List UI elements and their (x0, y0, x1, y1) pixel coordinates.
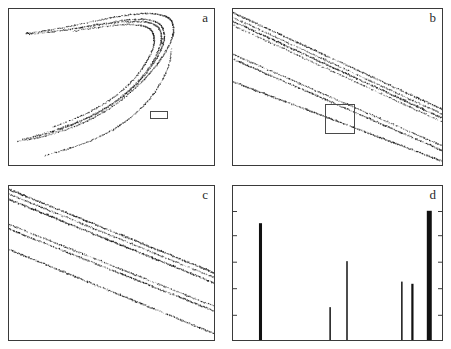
panel-label-b: b (430, 11, 437, 24)
panel-label-d: d (430, 188, 437, 201)
spectrum-bar (346, 261, 347, 340)
attractor-plot-c (8, 185, 215, 341)
zoom-region-box-a (150, 111, 169, 119)
spectrum-bar (259, 223, 262, 340)
attractor-plot-a (8, 8, 215, 166)
panel-d: d (232, 185, 443, 341)
spectrum-bar (427, 211, 432, 340)
panel-b: b (232, 8, 443, 166)
panel-a: a (8, 8, 215, 166)
panel-c: c (8, 185, 215, 341)
spectrum-bar (401, 282, 402, 340)
attractor-plot-b (232, 8, 443, 166)
panel-label-c: c (202, 188, 208, 201)
figure-container: a b c d (0, 0, 451, 349)
panel-label-a: a (202, 11, 208, 24)
spectrum-plot-d (232, 185, 443, 341)
spectrum-bar (411, 284, 413, 340)
spectrum-bar (329, 307, 330, 340)
zoom-region-box-b (325, 104, 356, 134)
